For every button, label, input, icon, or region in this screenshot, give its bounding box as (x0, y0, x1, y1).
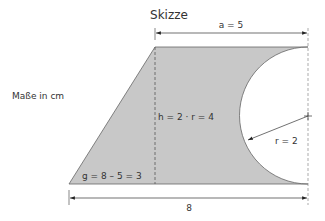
diagram-title: Skizze (150, 8, 188, 22)
units-note: Maße in cm (12, 91, 64, 101)
offset-g-label: g = 8 – 5 = 3 (82, 171, 142, 181)
height-label: h = 2 · r = 4 (158, 112, 214, 122)
dimension-base-label: 8 (186, 203, 192, 213)
dimension-a-label: a = 5 (219, 20, 244, 30)
radius-label: r = 2 (275, 136, 298, 146)
sketch-diagram: Skizze Maße in cm a = 5 8 h = 2 · r = 4 … (0, 0, 325, 221)
